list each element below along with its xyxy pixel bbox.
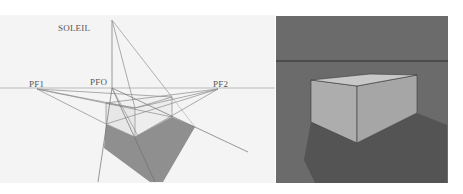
label-sun: SOLEIL xyxy=(58,23,90,33)
construction-drawing xyxy=(0,20,275,182)
rendered-box xyxy=(276,61,448,183)
label-pfo: PFO xyxy=(90,77,107,87)
label-pf2: PF2 xyxy=(213,79,228,89)
label-pf1: PF1 xyxy=(29,79,44,89)
